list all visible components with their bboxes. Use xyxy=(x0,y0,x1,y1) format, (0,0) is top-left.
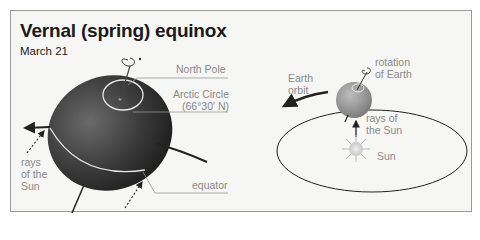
earth-axis-bottom xyxy=(72,185,84,213)
page-title: Vernal (spring) equinox xyxy=(20,20,227,42)
label-equator: equator xyxy=(192,179,228,191)
label-rotation-of-earth: rotation of Earth xyxy=(375,56,412,80)
label-rays-of-sun: rays of the Sun xyxy=(21,156,47,192)
label-rays-of-sun-right: rays of the Sun xyxy=(366,112,402,136)
date-subtitle: March 21 xyxy=(20,45,68,57)
label-north-pole: North Pole xyxy=(176,63,226,75)
sun-ray-arrow xyxy=(27,131,44,153)
earth-sphere xyxy=(31,58,188,208)
label-sun: Sun xyxy=(377,150,396,162)
rotation-arrow-icon xyxy=(122,58,135,66)
orbit-direction-arrow xyxy=(25,127,50,128)
label-arctic-circle: Arctic Circle (66°30′ N) xyxy=(169,88,229,112)
sun-icon xyxy=(342,135,370,162)
label-earth-orbit: Earth orbit xyxy=(288,72,313,96)
